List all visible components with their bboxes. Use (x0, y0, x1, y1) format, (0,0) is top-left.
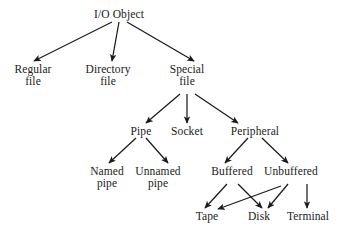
node-io-object-label: I/O Object (94, 8, 144, 20)
node-unnamed-pipe[interactable]: Unnamed pipe (135, 166, 180, 190)
node-named-pipe-label-2: pipe (90, 178, 124, 190)
node-socket-label: Socket (171, 125, 203, 137)
node-named-pipe[interactable]: Named pipe (90, 166, 124, 190)
edge-peripheral-to-unbuffered (262, 138, 288, 163)
edge-unbuffered-to-tape (218, 186, 281, 209)
node-special-file[interactable]: Special file (170, 64, 205, 88)
node-regular-file-label-2: file (14, 76, 51, 88)
edge-special-file-to-peripheral (195, 94, 238, 123)
node-unbuffered-label: Unbuffered (264, 165, 318, 177)
node-unnamed-pipe-label: Unnamed (135, 165, 180, 177)
edge-unbuffered-to-disk (268, 184, 288, 208)
node-buffered[interactable]: Buffered (211, 166, 252, 178)
node-regular-file-label: Regular (14, 63, 51, 75)
edge-buffered-to-tape (205, 184, 227, 208)
node-pipe-label: Pipe (131, 125, 152, 137)
node-peripheral[interactable]: Peripheral (231, 126, 279, 138)
node-directory-file-label: Directory (86, 63, 131, 75)
node-terminal[interactable]: Terminal (287, 211, 329, 223)
node-tape-label: Tape (196, 210, 219, 222)
node-terminal-label: Terminal (287, 210, 329, 222)
node-disk[interactable]: Disk (248, 211, 270, 223)
edge-io-object-to-directory-file (112, 22, 119, 61)
node-socket[interactable]: Socket (171, 126, 203, 138)
edge-buffered-to-disk (238, 184, 262, 208)
node-tape[interactable]: Tape (196, 211, 219, 223)
node-regular-file[interactable]: Regular file (14, 64, 51, 88)
edge-io-object-to-regular-file (34, 22, 112, 61)
node-buffered-label: Buffered (211, 165, 252, 177)
edge-peripheral-to-buffered (225, 138, 248, 163)
node-disk-label: Disk (248, 210, 270, 222)
node-pipe[interactable]: Pipe (131, 126, 152, 138)
diagram-edges (0, 0, 341, 239)
node-directory-file[interactable]: Directory file (86, 64, 131, 88)
node-special-file-label-2: file (170, 76, 205, 88)
diagram-canvas: I/O Object Regular file Directory file S… (0, 0, 341, 239)
edge-io-object-to-special-file (127, 22, 194, 61)
edge-pipe-to-named-pipe (109, 138, 136, 163)
edge-special-file-to-pipe (146, 94, 180, 123)
node-unnamed-pipe-label-2: pipe (135, 178, 180, 190)
node-named-pipe-label: Named (90, 165, 124, 177)
node-unbuffered[interactable]: Unbuffered (264, 166, 318, 178)
edge-pipe-to-unnamed-pipe (146, 138, 168, 163)
node-directory-file-label-2: file (86, 76, 131, 88)
node-peripheral-label: Peripheral (231, 125, 279, 137)
node-io-object[interactable]: I/O Object (94, 9, 144, 21)
node-special-file-label: Special (170, 63, 205, 75)
